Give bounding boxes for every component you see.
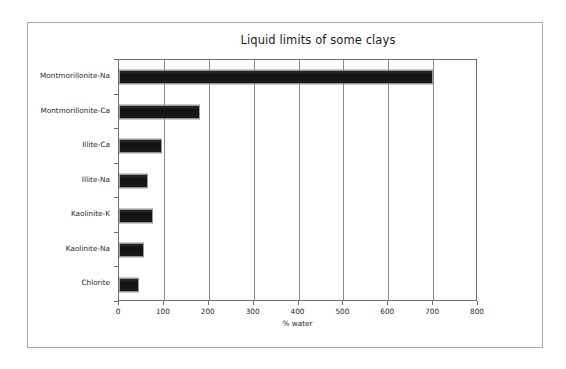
- bar: [119, 208, 153, 223]
- y-axis-label: Montmorillonite-Na: [40, 59, 110, 94]
- y-axis-label: Chlorite: [81, 266, 110, 301]
- bar: [119, 70, 433, 85]
- x-axis-tick-label: 0: [116, 307, 121, 316]
- x-axis-tick: [477, 301, 478, 305]
- x-axis-tick-label: 700: [425, 307, 439, 316]
- bar-band: [119, 267, 476, 302]
- y-axis-label: Illite-Na: [82, 163, 110, 198]
- bar-band: [119, 164, 476, 199]
- y-axis-category-labels: Montmorillonite-NaMontmorillonite-CaIlli…: [28, 59, 114, 301]
- x-axis-tick: [342, 301, 343, 305]
- bar: [119, 104, 200, 119]
- x-axis-tick-label: 100: [156, 307, 170, 316]
- bar: [119, 173, 148, 188]
- bar-band: [119, 233, 476, 268]
- bar: [119, 277, 139, 292]
- x-axis-tick: [163, 301, 164, 305]
- x-axis-tick-label: 800: [470, 307, 484, 316]
- bar-band: [119, 60, 476, 95]
- x-axis-tick: [387, 301, 388, 305]
- y-axis-tick: [114, 94, 118, 95]
- bar-band: [119, 95, 476, 130]
- y-axis-label: Illite-Ca: [82, 128, 110, 163]
- y-axis-tick: [114, 232, 118, 233]
- x-axis-tick-label: 500: [335, 307, 349, 316]
- bar-band: [119, 129, 476, 164]
- y-axis-label: Montmorillonite-Ca: [40, 94, 110, 129]
- y-axis-tick: [114, 197, 118, 198]
- y-axis-tick: [114, 266, 118, 267]
- y-axis-tick: [114, 301, 118, 302]
- plot-area: [118, 59, 477, 301]
- y-axis-label: Kaolinite-K: [71, 197, 110, 232]
- y-axis-tick: [114, 163, 118, 164]
- x-axis-tick-label: 400: [291, 307, 305, 316]
- x-axis-tick-label: 200: [201, 307, 215, 316]
- x-axis-title: % water: [118, 319, 477, 328]
- x-axis-tick: [253, 301, 254, 305]
- document-frame: Liquid limits of some clays Montmorillon…: [27, 22, 543, 348]
- bar: [119, 243, 144, 258]
- x-axis-tick: [432, 301, 433, 305]
- bar-band: [119, 198, 476, 233]
- y-axis-label: Kaolinite-Na: [66, 232, 110, 267]
- x-axis-tick: [298, 301, 299, 305]
- y-axis-tick: [114, 128, 118, 129]
- y-axis-tick: [114, 59, 118, 60]
- x-axis-tick: [208, 301, 209, 305]
- x-axis-tick-label: 300: [246, 307, 260, 316]
- x-axis-tick: [118, 301, 119, 305]
- bar: [119, 139, 162, 154]
- x-axis-tick-label: 600: [380, 307, 394, 316]
- chart-title: Liquid limits of some clays: [118, 33, 518, 47]
